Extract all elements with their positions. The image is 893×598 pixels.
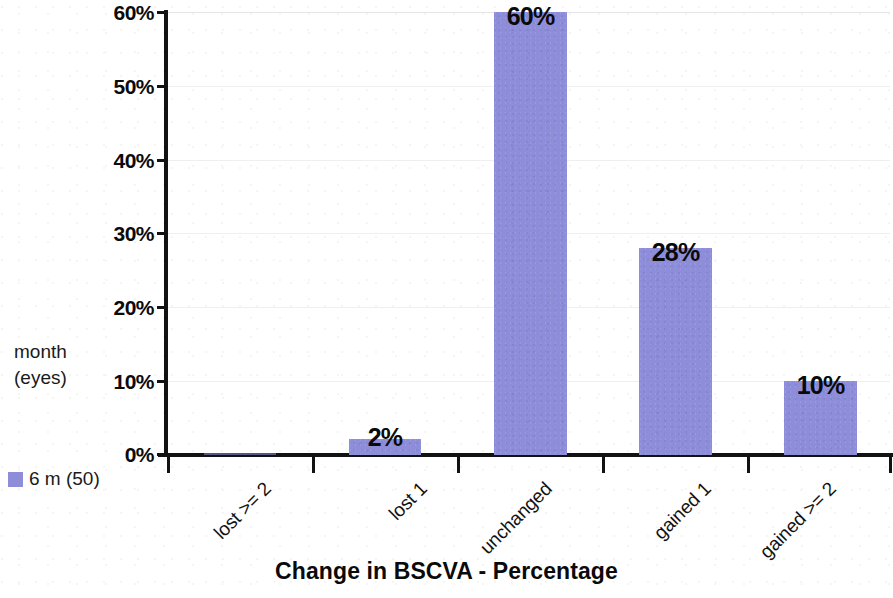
series-axis-title-line2: (eyes) xyxy=(14,365,126,391)
legend-label-6m: 6 m (50) xyxy=(29,468,100,490)
series-axis-title-line1: month xyxy=(14,339,126,365)
x-tick-3 xyxy=(602,456,605,473)
bar-lost-ge-2[interactable] xyxy=(204,453,276,455)
legend-swatch-icon xyxy=(8,472,23,487)
bars-layer: 2% 60% 28% 10% xyxy=(0,12,893,455)
bar-chart: 60% 50% 40% 30% 20% 10% 0% 2% 60% 28% 10… xyxy=(0,0,893,598)
bar-value-gained-ge-2: 10% xyxy=(779,371,862,400)
x-tick-2 xyxy=(457,456,460,473)
bar-unchanged[interactable] xyxy=(494,12,567,455)
x-tick-0 xyxy=(167,456,170,473)
x-tick-5 xyxy=(889,456,892,473)
legend: 6 m (50) xyxy=(8,468,100,490)
x-tick-1 xyxy=(312,456,315,473)
bar-value-lost-1: 2% xyxy=(349,423,421,452)
x-tick-4 xyxy=(747,456,750,473)
bar-gained-1[interactable] xyxy=(639,248,712,455)
bar-value-gained-1: 28% xyxy=(634,238,717,267)
series-axis-title: month (eyes) xyxy=(14,339,126,391)
chart-title: Change in BSCVA - Percentage xyxy=(0,558,893,585)
bar-value-unchanged: 60% xyxy=(489,2,572,31)
